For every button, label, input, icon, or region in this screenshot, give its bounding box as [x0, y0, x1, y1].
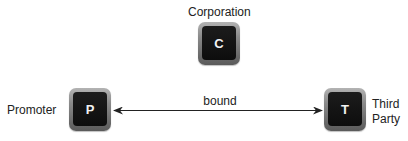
third-party-node-inner: T: [328, 92, 362, 126]
promoter-node[interactable]: P: [69, 88, 111, 131]
promoter-label: Promoter: [7, 103, 56, 117]
third-party-label: Third Party: [372, 97, 408, 127]
third-party-node-letter: T: [341, 103, 349, 116]
third-party-node[interactable]: T: [324, 88, 366, 131]
promoter-node-inner: P: [73, 92, 107, 126]
corporation-node-inner: C: [202, 26, 236, 60]
bound-edge-label: bound: [196, 94, 244, 108]
corporation-node-letter: C: [214, 37, 223, 50]
promoter-node-letter: P: [86, 103, 95, 116]
corporation-node[interactable]: C: [198, 22, 240, 65]
corporation-label: Corporation: [188, 5, 250, 19]
